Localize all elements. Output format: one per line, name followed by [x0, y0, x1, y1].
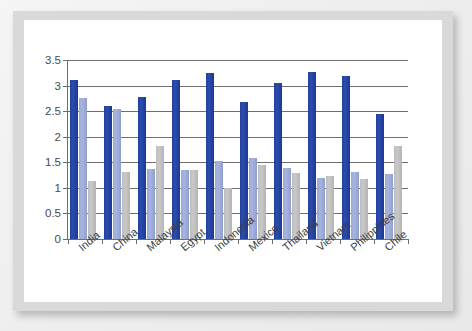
legend-item: People Skills [198, 301, 275, 302]
y-axis-tick-label: 1 [55, 182, 61, 194]
bar-group [240, 60, 266, 239]
bar-group [274, 60, 300, 239]
x-axis-tick [340, 239, 341, 244]
y-axis-tick [63, 162, 68, 163]
x-axis-tick [136, 239, 137, 244]
chart-frame: 00.511.522.533.5 IndiaChinaMalaysiaEgypt… [13, 11, 453, 311]
bar [317, 178, 325, 239]
x-axis-tick [306, 239, 307, 244]
x-axis-tick [204, 239, 205, 244]
bar-group [138, 60, 164, 239]
x-axis-tick-labels: IndiaChinaMalaysiaEgyptIndonesiaMexicoTh… [68, 244, 408, 296]
bar [138, 97, 146, 239]
bar [79, 98, 87, 239]
bar [385, 174, 393, 239]
legend-item: Financial Attractiveness [53, 301, 185, 302]
bar [351, 172, 359, 239]
y-axis-tick-labels: 00.511.522.533.5 [24, 60, 61, 239]
bar-group [104, 60, 130, 239]
bar [342, 76, 350, 239]
bar [156, 146, 164, 239]
y-axis-tick [63, 86, 68, 87]
bar [308, 72, 316, 239]
legend-item: Business Environment [288, 301, 413, 302]
x-axis-tick [272, 239, 273, 244]
y-axis-line [67, 60, 68, 239]
bar-group [70, 60, 96, 239]
bar [113, 109, 121, 239]
bar-group [308, 60, 334, 239]
bar [181, 170, 189, 239]
bar [206, 73, 214, 239]
y-axis-tick [63, 137, 68, 138]
x-axis-tick [374, 239, 375, 244]
legend-label: Financial Attractiveness [64, 301, 185, 302]
bar-group [342, 60, 368, 239]
plot-area [68, 60, 408, 239]
x-axis-tick [408, 239, 409, 244]
x-axis-tick [238, 239, 239, 244]
y-axis-tick [63, 188, 68, 189]
y-axis-tick [63, 213, 68, 214]
bar [147, 169, 155, 239]
x-axis-tick [102, 239, 103, 244]
figure-root: 00.511.522.533.5 IndiaChinaMalaysiaEgypt… [0, 0, 472, 331]
legend-label: Business Environment [299, 301, 413, 302]
y-axis-tick-label: 3 [55, 80, 61, 92]
y-axis-tick-label: 0 [55, 233, 61, 245]
y-axis-tick [63, 60, 68, 61]
bar [283, 168, 291, 239]
x-axis-tick [170, 239, 171, 244]
x-axis-tick [68, 239, 69, 244]
bar [274, 83, 282, 239]
y-axis-tick-label: 3.5 [45, 54, 61, 66]
y-axis-tick [63, 111, 68, 112]
bar-group [172, 60, 198, 239]
y-axis-tick-label: 1.5 [45, 156, 61, 168]
y-axis-tick-label: 2 [55, 131, 61, 143]
bar [70, 80, 78, 239]
y-axis-tick-label: 2.5 [45, 105, 61, 117]
bar [104, 106, 112, 239]
chart-legend: Financial AttractivenessPeople SkillsBus… [24, 301, 442, 302]
bar [394, 146, 402, 239]
bar-group [206, 60, 232, 239]
y-axis-tick-label: 0.5 [45, 207, 61, 219]
chart-panel: 00.511.522.533.5 IndiaChinaMalaysiaEgypt… [24, 20, 442, 302]
bar [215, 161, 223, 239]
legend-label: People Skills [209, 301, 275, 302]
